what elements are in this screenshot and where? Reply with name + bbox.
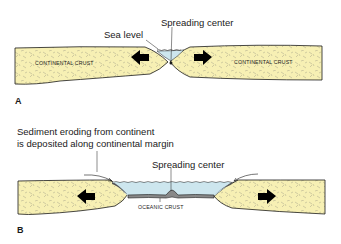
label-spreading-center-b: Spreading center [152, 159, 224, 170]
label-spreading-center-a: Spreading center [161, 17, 233, 28]
label-sediment-line1: Sediment eroding from continent [17, 126, 155, 137]
label-sea-level: Sea level [104, 29, 143, 40]
label-continental-crust-left: CONTINENTAL CRUST [35, 60, 94, 66]
label-sediment-line2: is deposited along continental margin [17, 138, 174, 149]
label-continental-crust-right: CONTINENTAL CRUST [234, 59, 293, 65]
panel-letter-b: B [17, 225, 24, 235]
rift-diagram: Spreading center Sea level CONTINENTAL C… [0, 0, 341, 244]
label-oceanic-crust: OCEANIC CRUST [138, 204, 184, 210]
panel-a: Spreading center Sea level CONTINENTAL C… [15, 17, 322, 106]
left-continental-crust-b [18, 180, 128, 215]
panel-b: Sediment eroding from continent is depos… [17, 126, 325, 235]
panel-letter-a: A [15, 96, 22, 106]
sea-level-leader [146, 40, 158, 49]
